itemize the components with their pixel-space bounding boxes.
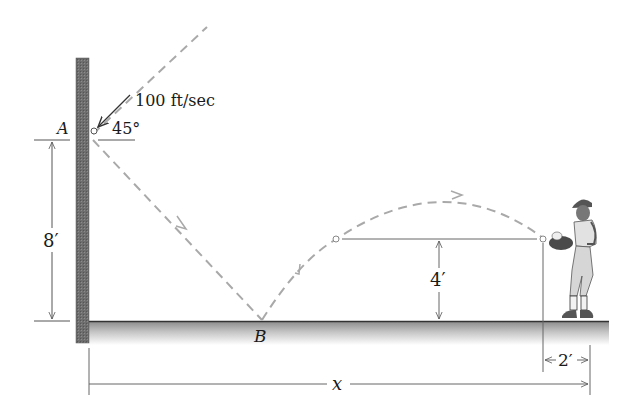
direction-arrow-icon xyxy=(451,191,462,199)
ground xyxy=(89,321,609,345)
path-a-to-b xyxy=(93,140,262,320)
catch-height-label: 4′ xyxy=(430,269,446,290)
incoming-path xyxy=(93,27,207,134)
wall xyxy=(76,58,89,343)
ball-mid xyxy=(333,236,339,242)
baseball-player xyxy=(549,199,596,318)
direction-arrow-icon xyxy=(295,264,300,274)
velocity-label: 100 ft/sec xyxy=(135,91,215,110)
height-a-label: 8′ xyxy=(43,230,59,251)
ball-trajectory-diagram: 100 ft/sec 45° A 8′ B 4′ 2′ x xyxy=(0,0,630,417)
angle-label: 45° xyxy=(112,119,140,138)
catch-offset-label: 2′ xyxy=(558,350,573,370)
ball-catch xyxy=(540,236,546,242)
ball-at-a xyxy=(91,128,97,134)
path-b-arc xyxy=(262,202,543,320)
point-b-label: B xyxy=(253,326,267,346)
distance-label: x xyxy=(332,373,342,394)
point-a-label: A xyxy=(55,119,69,138)
trajectory xyxy=(93,27,543,320)
direction-arrow-icon xyxy=(176,216,186,229)
